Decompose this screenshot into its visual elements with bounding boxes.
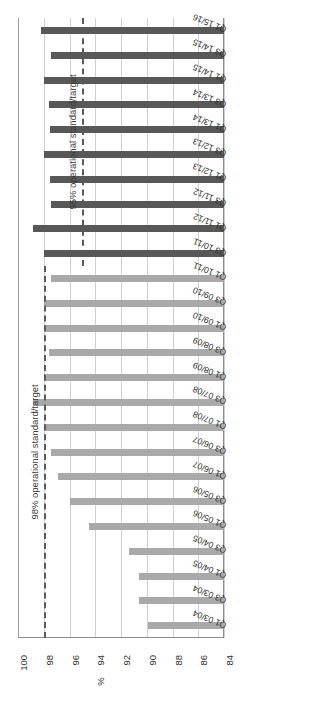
chart-figure: 98% operational standard/target95% opera… [0, 0, 309, 701]
category-tick-labels: Q1 03/04Q3 03/04Q1 04/05Q3 04/05Q1 05/06… [226, 18, 309, 638]
bar [51, 275, 224, 282]
bar [41, 27, 224, 34]
axis-title-percent: % [95, 677, 106, 685]
value-tick-100: 100 [18, 655, 29, 681]
value-tick-96: 96 [70, 655, 81, 681]
bar [44, 300, 224, 307]
bar [44, 250, 224, 257]
bar [58, 473, 224, 480]
bar [33, 399, 224, 406]
bar [44, 325, 224, 332]
value-tick-98: 98 [44, 655, 55, 681]
bar [44, 424, 224, 431]
value-tick-92: 92 [121, 655, 132, 681]
bar [49, 349, 224, 356]
target-line-95 [82, 18, 84, 266]
value-tick-90: 90 [147, 655, 158, 681]
bar [70, 498, 225, 505]
value-tick-86: 86 [198, 655, 209, 681]
plot-area: 98% operational standard/target95% opera… [18, 18, 224, 638]
bar [44, 374, 224, 381]
target-line-98 [44, 266, 46, 638]
bar [33, 225, 224, 232]
value-tick-88: 88 [173, 655, 184, 681]
bar [89, 523, 224, 530]
value-tick-84: 84 [224, 655, 235, 681]
bar-series [18, 18, 224, 638]
target-label: 95% operational standard/target [67, 74, 78, 209]
bar [51, 52, 224, 59]
value-tick-labels: 1009896949290888684 [0, 640, 240, 680]
target-label: 98% operational standard/target [29, 384, 40, 519]
bar [51, 449, 224, 456]
